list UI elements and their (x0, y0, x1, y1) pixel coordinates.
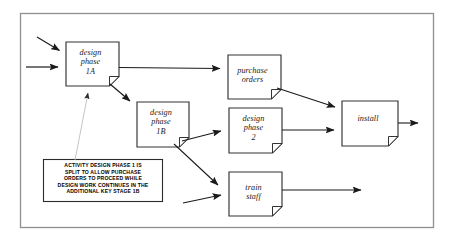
connector-1b-to-train-staff (174, 144, 218, 185)
connector-purchase-orders-to-install (277, 88, 335, 107)
connector-note-pointer-to-1a (75, 93, 88, 160)
node-design-phase-1b[interactable] (137, 102, 189, 147)
node-design-phase-2[interactable] (229, 108, 282, 153)
node-train-staff[interactable] (229, 172, 282, 216)
diagram-svg (0, 0, 452, 244)
diagram-canvas: design phase 1A purchase orders design p… (0, 0, 452, 244)
node-purchase-orders[interactable] (228, 55, 281, 99)
connector-input-to-train-staff (183, 195, 221, 203)
connector-input-diagonal-to-1a (37, 37, 60, 51)
node-design-phase-1a[interactable] (66, 42, 119, 86)
connector-1a-to-1b (110, 84, 130, 101)
connector-1a-to-purchase-orders (119, 68, 220, 69)
activity-note-text: ACTIVITY DESIGN PHASE 1 IS SPLIT TO ALLO… (44, 162, 162, 195)
node-install[interactable] (342, 101, 398, 146)
